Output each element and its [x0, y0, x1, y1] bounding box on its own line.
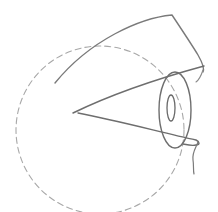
- eye-sketch: [0, 0, 218, 212]
